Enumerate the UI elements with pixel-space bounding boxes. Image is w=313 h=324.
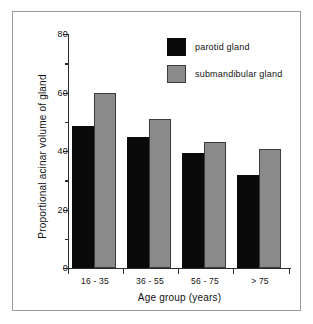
x-tick-2 <box>178 269 179 274</box>
legend-item-parotid[interactable]: parotid gland <box>167 38 250 56</box>
legend-swatch-parotid-icon <box>167 38 186 56</box>
bar-parotid-36-55[interactable] <box>127 137 149 268</box>
legend-swatch-submandibular-icon <box>167 65 186 83</box>
x-tick-label-56-75: 56 - 75 <box>191 276 219 286</box>
x-tick-4 <box>289 269 290 274</box>
legend-label-parotid: parotid gland <box>195 42 250 52</box>
legend-item-submandibular[interactable]: submandibular gland <box>167 65 282 83</box>
y-tick-label-20: 20 <box>58 205 68 215</box>
x-tick-1 <box>123 269 124 274</box>
y-axis-line <box>68 34 69 269</box>
x-tick-3 <box>233 269 234 274</box>
bar-parotid-56-75[interactable] <box>182 153 204 269</box>
x-axis-line <box>68 268 291 269</box>
bar-parotid-16-35[interactable] <box>72 126 94 268</box>
bar-submandibular-16-35[interactable] <box>94 93 116 269</box>
x-tick-label-over-75: > 75 <box>251 276 269 286</box>
x-tick-0 <box>68 269 69 274</box>
x-axis-title: Age group (years) <box>68 292 291 303</box>
y-tick-label-60: 60 <box>58 88 68 98</box>
y-tick-label-40: 40 <box>58 146 68 156</box>
y-tick-label-80: 80 <box>58 29 68 39</box>
y-axis-title: Proportional acinar volume of gland <box>37 57 48 257</box>
bar-submandibular-36-55[interactable] <box>149 119 171 268</box>
bar-submandibular-over-75[interactable] <box>259 149 281 268</box>
y-tick-50-minor <box>52 122 68 123</box>
x-tick-label-16-35: 16 - 35 <box>81 276 109 286</box>
bar-parotid-over-75[interactable] <box>237 175 259 268</box>
figure-container: 80 60 40 20 0 <box>0 0 313 324</box>
y-tick-10-minor <box>52 239 68 240</box>
plot-area: 80 60 40 20 0 <box>0 0 313 324</box>
y-tick-70-minor <box>52 63 68 64</box>
y-tick-30-minor <box>52 180 68 181</box>
x-tick-label-36-55: 36 - 55 <box>136 276 164 286</box>
legend-label-submandibular: submandibular gland <box>195 69 282 79</box>
bar-submandibular-56-75[interactable] <box>204 142 226 268</box>
